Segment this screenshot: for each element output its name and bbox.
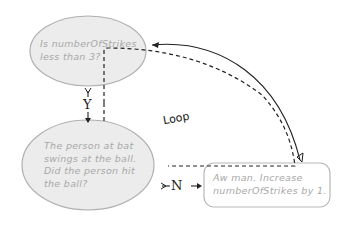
arrowhead-return (152, 42, 159, 48)
decision-strikes-text: Is numberOfStrikes less than 3? (40, 38, 137, 63)
text-line: less than 3? (40, 51, 137, 64)
action-increase-text: Aw man. Increase numberOfStrikes by 1. (213, 172, 327, 197)
yes-label: Y (83, 97, 92, 112)
decision-hit-text: The person at bat swings at the ball. Di… (44, 140, 136, 190)
text-line: The person at bat (44, 140, 136, 153)
return-arrow (152, 44, 300, 160)
text-line: Did the person hit (44, 165, 136, 178)
arrowhead-no (197, 183, 202, 189)
arrow-tail-feather (297, 153, 303, 162)
yes-arrow-feather (85, 88, 91, 93)
text-line: Aw man. Increase (213, 172, 327, 185)
text-line: the ball? (44, 178, 136, 191)
no-label: N (171, 178, 182, 193)
text-line: Is numberOfStrikes (40, 38, 137, 51)
text-line: swings at the ball. (44, 153, 136, 166)
text-line: numberOfStrikes by 1. (213, 185, 327, 198)
flowchart-diagram: Is numberOfStrikes less than 3? The pers… (0, 0, 352, 244)
